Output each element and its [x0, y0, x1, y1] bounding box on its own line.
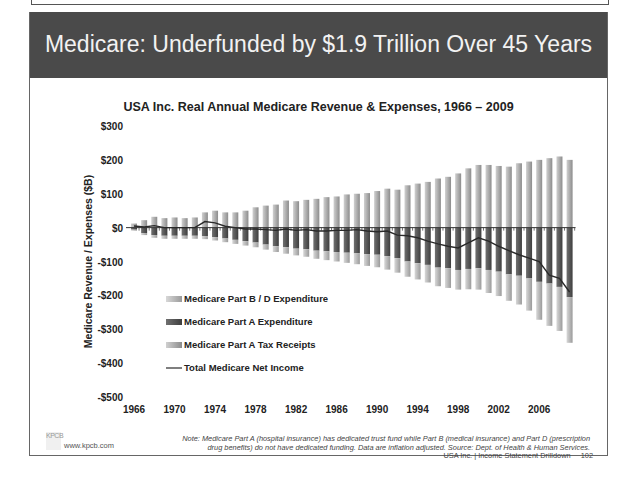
legend-label: Medicare Part A Tax Receipts	[184, 339, 316, 350]
bar-part-bd-expenditure	[475, 268, 481, 289]
bar-part-bd-expenditure	[374, 255, 380, 268]
bar-part-a-tax	[384, 189, 390, 228]
bar-part-a-tax	[354, 194, 360, 228]
bar-part-a-expenditure	[394, 228, 400, 258]
bar-part-a-tax	[374, 191, 380, 228]
legend-part-a-tax-swatch	[166, 342, 182, 348]
site-url-link[interactable]: www.kpcb.com	[64, 441, 114, 450]
bar-part-a-expenditure	[526, 228, 532, 279]
bar-part-a-expenditure	[182, 228, 188, 236]
bar-part-a-tax	[323, 197, 329, 227]
bar-part-bd-expenditure	[313, 251, 319, 259]
bar-part-a-expenditure	[435, 228, 441, 268]
x-tick-label: 1978	[244, 404, 267, 415]
bar-part-bd-expenditure	[394, 258, 400, 273]
bar-part-bd-expenditure	[253, 243, 259, 248]
bar-part-bd-expenditure	[526, 278, 532, 310]
bar-part-a-expenditure	[344, 228, 350, 253]
bar-part-bd-expenditure	[323, 251, 329, 260]
net-income-line	[134, 222, 570, 292]
bar-part-a-tax	[486, 165, 492, 228]
bar-part-a-expenditure	[567, 228, 573, 297]
legend-label: Total Medicare Net Income	[184, 362, 304, 373]
bar-part-a-tax	[526, 162, 532, 228]
bar-part-a-expenditure	[283, 228, 289, 248]
bar-part-bd-expenditure	[344, 253, 350, 263]
x-tick-label: 1998	[447, 404, 470, 415]
footer-text: USA Inc. | Income Statement Drilldown	[443, 451, 570, 460]
bar-part-bd-expenditure	[192, 236, 198, 239]
x-tick-label: 1982	[285, 404, 308, 415]
bar-part-a-tax	[232, 212, 238, 227]
bar-part-a-expenditure	[161, 228, 167, 236]
y-tick-label: -$100	[97, 257, 123, 268]
bar-part-a-tax	[465, 168, 471, 227]
bar-part-a-tax	[394, 190, 400, 228]
bar-part-a-expenditure	[202, 228, 208, 236]
bar-part-bd-expenditure	[283, 247, 289, 253]
bar-part-a-tax	[273, 205, 279, 228]
bar-part-bd-expenditure	[151, 235, 157, 238]
bar-part-a-tax	[334, 196, 340, 227]
legend-part-bd-swatch	[166, 296, 182, 302]
x-tick-label: 1966	[123, 404, 146, 415]
bar-part-bd-expenditure	[202, 236, 208, 239]
footnote: Note: Medicare Part A (hospital insuranc…	[170, 434, 590, 452]
bar-part-bd-expenditure	[293, 249, 299, 256]
y-tick-label: $100	[101, 189, 124, 200]
bar-part-bd-expenditure	[242, 241, 248, 245]
bar-part-a-expenditure	[445, 228, 451, 269]
bar-part-a-expenditure	[536, 228, 542, 282]
bar-part-a-expenditure	[141, 228, 147, 233]
bar-part-bd-expenditure	[212, 237, 218, 240]
bar-part-a-tax	[293, 201, 299, 227]
y-tick-label: -$200	[97, 290, 123, 301]
x-tick-label: 1990	[366, 404, 389, 415]
bar-part-a-expenditure	[151, 228, 157, 235]
bar-part-a-expenditure	[455, 228, 461, 270]
bar-part-a-expenditure	[405, 228, 411, 262]
x-tick-label: 1970	[163, 404, 186, 415]
bar-part-a-expenditure	[192, 228, 198, 236]
bar-part-a-tax	[161, 218, 167, 227]
page-footer: USA Inc. | Income Statement Drilldown 10…	[443, 451, 593, 460]
bar-part-a-tax	[556, 156, 562, 227]
bar-part-a-tax	[212, 211, 218, 228]
legend-label: Medicare Part B / D Expenditure	[184, 293, 328, 304]
bar-part-bd-expenditure	[465, 269, 471, 289]
bar-part-a-tax	[425, 182, 431, 228]
page-number: 102	[581, 451, 593, 460]
bar-part-a-tax	[536, 160, 542, 228]
bar-part-bd-expenditure	[415, 263, 421, 279]
bar-part-a-tax	[242, 211, 248, 228]
bar-part-a-expenditure	[172, 228, 178, 236]
legend-part-a-expenditure-swatch	[166, 319, 182, 325]
bar-part-bd-expenditure	[354, 253, 360, 264]
bar-part-bd-expenditure	[172, 236, 178, 239]
bar-part-a-tax	[202, 212, 208, 227]
bar-part-bd-expenditure	[303, 249, 309, 256]
bar-part-bd-expenditure	[435, 268, 441, 287]
x-tick-label: 2002	[488, 404, 511, 415]
legend-label: Medicare Part A Expenditure	[184, 316, 313, 327]
bar-part-bd-expenditure	[405, 262, 411, 277]
bar-part-a-tax	[172, 217, 178, 227]
bar-part-a-expenditure	[253, 228, 259, 243]
previous-slide-frame	[31, 0, 609, 5]
bar-part-a-tax	[364, 193, 370, 228]
bar-part-bd-expenditure	[536, 282, 542, 320]
bar-part-bd-expenditure	[384, 256, 390, 270]
bar-part-a-tax	[567, 160, 573, 228]
bar-part-a-tax	[506, 167, 512, 228]
bar-part-a-tax	[263, 206, 269, 228]
y-tick-label: -$500	[97, 392, 123, 403]
y-tick-label: -$400	[97, 358, 123, 369]
bar-part-a-expenditure	[465, 228, 471, 269]
bar-part-a-expenditure	[475, 228, 481, 269]
bar-part-a-tax	[516, 163, 522, 227]
bar-part-bd-expenditure	[556, 287, 562, 331]
bar-part-bd-expenditure	[334, 252, 340, 261]
bar-part-bd-expenditure	[182, 236, 188, 239]
y-tick-label: $300	[101, 121, 124, 132]
bar-part-bd-expenditure	[273, 246, 279, 252]
